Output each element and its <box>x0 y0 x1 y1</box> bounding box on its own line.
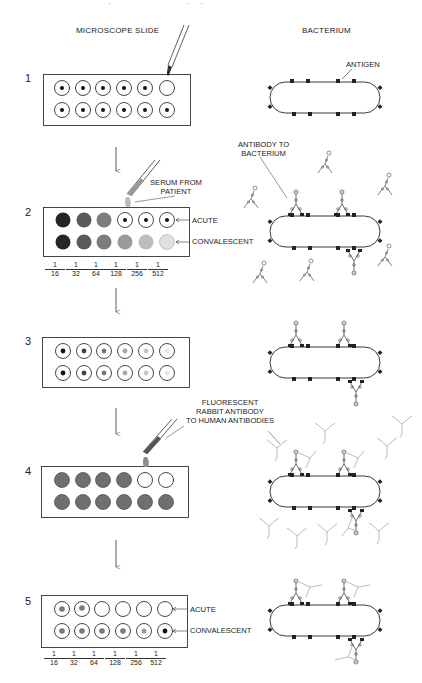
slide-step1 <box>44 25 191 126</box>
bacterium-step3 <box>268 321 383 406</box>
diagram-artwork <box>0 0 422 683</box>
slide-step4 <box>42 419 189 518</box>
slide-step5 <box>42 596 189 648</box>
bacterium-step2 <box>244 151 392 283</box>
slide-step2 <box>44 160 191 257</box>
bacterium-step1 <box>268 69 383 116</box>
bacterium-step5 <box>268 579 383 664</box>
bacterium-step4 <box>259 416 412 549</box>
slide-step3 <box>43 338 190 388</box>
